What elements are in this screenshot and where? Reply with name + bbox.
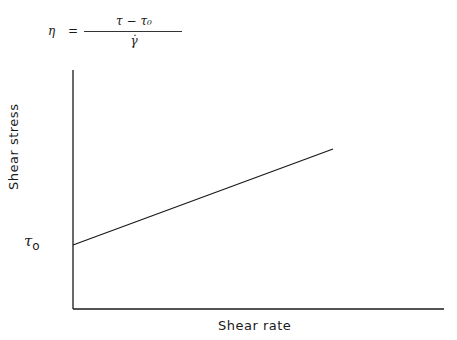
data-line (73, 149, 333, 245)
plot-area (0, 0, 457, 340)
intercept-label: τo (24, 232, 40, 253)
x-axis-label: Shear rate (218, 318, 291, 333)
intercept-subscript: o (32, 239, 39, 253)
y-axis-label: Shear stress (6, 104, 21, 190)
